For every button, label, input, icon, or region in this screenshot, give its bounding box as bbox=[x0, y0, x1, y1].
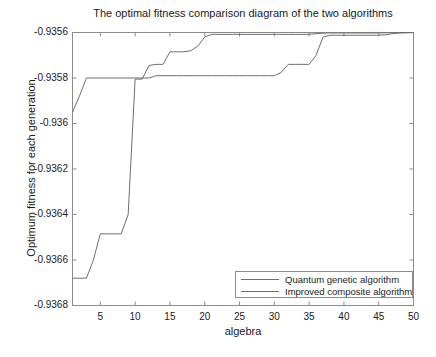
y-tick-label: -0.9368 bbox=[14, 299, 68, 310]
legend-item-improved-composite-algorithm[interactable]: Improved composite algorithm bbox=[236, 285, 412, 298]
y-tick-label: -0.9362 bbox=[14, 163, 68, 174]
y-tick-label: -0.9356 bbox=[14, 26, 68, 37]
x-tick-label: 35 bbox=[294, 311, 324, 322]
x-tick-label: 30 bbox=[259, 311, 289, 322]
legend-line-icon bbox=[241, 279, 279, 280]
y-tick-label: -0.9364 bbox=[14, 208, 68, 219]
series-line bbox=[73, 33, 414, 113]
x-axis-title: algebra bbox=[72, 325, 414, 337]
legend-label: Quantum genetic algorithm bbox=[285, 274, 399, 285]
legend-line-icon bbox=[241, 291, 279, 292]
x-tick-label: 50 bbox=[399, 311, 429, 322]
x-tick-label: 10 bbox=[120, 311, 150, 322]
x-tick-label: 20 bbox=[190, 311, 220, 322]
data-series bbox=[73, 33, 414, 279]
series-line bbox=[73, 33, 414, 279]
x-tick-label: 40 bbox=[329, 311, 359, 322]
x-tick-label: 45 bbox=[364, 311, 394, 322]
x-tick-label: 5 bbox=[85, 311, 115, 322]
legend[interactable]: Quantum genetic algorithm Improved compo… bbox=[235, 271, 413, 298]
axis-ticks bbox=[73, 33, 414, 306]
axes-frame bbox=[73, 33, 414, 306]
y-tick-label: -0.936 bbox=[14, 117, 68, 128]
y-tick-label: -0.9358 bbox=[14, 72, 68, 83]
figure-canvas: The optimal fitness comparison diagram o… bbox=[0, 0, 436, 357]
x-tick-label: 25 bbox=[225, 311, 255, 322]
x-tick-label: 15 bbox=[155, 311, 185, 322]
y-tick-label: -0.9366 bbox=[14, 254, 68, 265]
y-axis-title: Optimum fitness for each generation bbox=[25, 53, 37, 283]
legend-label: Improved composite algorithm bbox=[285, 286, 412, 297]
